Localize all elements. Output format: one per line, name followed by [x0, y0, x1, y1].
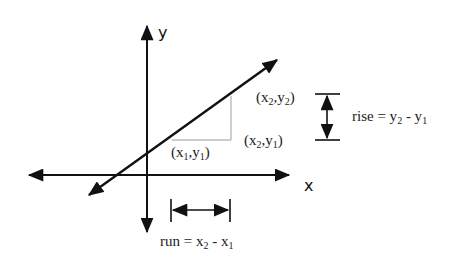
y-axis-label: y [158, 23, 167, 42]
slope-diagram: y x (x2,y2) (x2,y1) (x1,y1) rise = y2 - … [0, 0, 456, 262]
point-label-x1-y1: (x1,y1) [171, 144, 210, 162]
rise-bracket [315, 94, 340, 140]
rise-formula: rise = y2 - y1 [352, 108, 427, 126]
rise-run-guide [172, 96, 231, 140]
x-axis-label: x [304, 176, 313, 195]
run-bracket [171, 199, 230, 222]
point-label-x2-y1: (x2,y1) [244, 132, 283, 150]
run-formula: run = x2 - x1 [160, 233, 233, 251]
point-label-x2-y2: (x2,y2) [256, 89, 295, 107]
